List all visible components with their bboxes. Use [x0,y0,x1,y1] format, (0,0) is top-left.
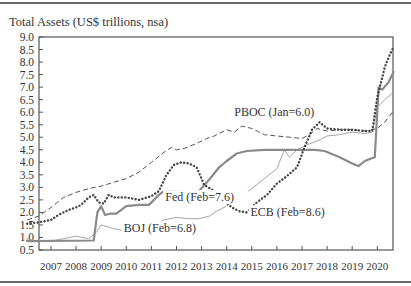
plot-frame [39,37,393,250]
x-tick-label: 2018 [316,260,339,272]
series-line-boj [27,92,393,241]
x-tick-label: 2016 [266,260,289,272]
x-tick-label: 2013 [191,260,214,272]
y-tick-label: 0.5 [20,244,35,256]
x-tick-label: 2019 [341,260,364,272]
chart-plot: 9.08.58.07.57.06.56.05.55.04.54.03.53.02… [0,0,411,286]
y-tick-label: 1.5 [20,219,35,231]
y-tick-label: 5.0 [20,131,35,143]
y-tick-label: 3.0 [20,181,35,193]
y-tick-label: 2.5 [20,194,35,206]
y-tick-label: 7.5 [20,69,35,81]
x-tick-label: 2007 [40,260,63,272]
y-tick-label: 8.5 [20,44,35,56]
y-tick-label: 5.5 [20,119,35,131]
series-labels: PBOC (Jan=6.0)Fed (Feb=7.6)ECB (Feb=8.6)… [122,105,333,236]
series-lines [27,47,393,241]
x-tick-label: 2010 [115,260,138,272]
series-label: PBOC (Jan=6.0) [234,105,314,119]
y-tick-label: 3.5 [20,169,35,181]
y-tick-label: 6.0 [20,106,35,118]
y-tick-label: 7.0 [20,81,35,93]
x-tick-label: 2014 [216,260,239,272]
x-tick-label: 2017 [291,260,314,272]
x-tick-label: 2015 [241,260,264,272]
x-tick-label: 2009 [90,260,113,272]
series-label: ECB (Feb=8.6) [251,205,325,219]
series-label: Fed (Feb=7.6) [165,190,234,204]
bottom-rule [0,281,411,283]
y-tick-label: 4.5 [20,144,35,156]
x-tick-label: 2011 [141,260,163,272]
y-tick-label: 2.0 [20,206,35,218]
y-tick-label: 9.0 [20,31,35,43]
y-tick-label: 8.0 [20,56,35,68]
x-tick-label: 2012 [166,260,188,272]
y-tick-label: 4.0 [20,156,35,168]
series-label: BOJ (Feb=6.8) [124,221,196,235]
y-tick-label: 6.5 [20,94,35,106]
x-tick-label: 2020 [366,260,389,272]
x-tick-label: 2008 [65,260,88,272]
